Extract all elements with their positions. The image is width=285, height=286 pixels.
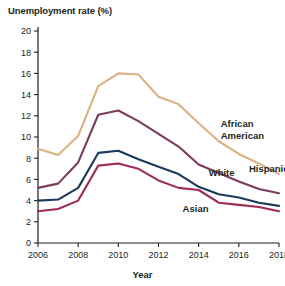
series-label-asian: Asian <box>183 203 209 214</box>
x-tick-label: 2008 <box>68 250 88 260</box>
x-tick-label: 2006 <box>28 250 48 260</box>
y-tick-label: 18 <box>21 48 31 58</box>
y-tick-label: 6 <box>26 175 31 185</box>
unemployment-rate-chart: Unemployment rate (%) 02468101214161820 … <box>0 0 285 286</box>
y-tick-label: 14 <box>21 90 31 100</box>
x-axis-title: Year <box>0 269 285 280</box>
y-tick-label: 16 <box>21 69 31 79</box>
chart-plot-area: 02468101214161820 2006200820102012201420… <box>0 0 285 286</box>
y-tick-label: 4 <box>26 196 31 206</box>
series-line-asian <box>38 164 279 212</box>
series-label-white: White <box>209 167 235 178</box>
y-tick-label: 0 <box>26 238 31 248</box>
y-tick-label: 2 <box>26 217 31 227</box>
y-tick-label: 20 <box>21 26 31 36</box>
series-line-white <box>38 151 279 206</box>
y-axis-ticks: 02468101214161820 <box>21 26 38 248</box>
x-tick-label: 2014 <box>189 250 209 260</box>
x-tick-label: 2010 <box>108 250 128 260</box>
series-label-hispanic: Hispanic <box>249 163 285 174</box>
data-series <box>38 73 279 211</box>
x-tick-label: 2012 <box>148 250 168 260</box>
y-tick-label: 12 <box>21 111 31 121</box>
y-tick-label: 10 <box>21 132 31 142</box>
x-tick-label: 2016 <box>229 250 249 260</box>
series-label-american: American <box>221 130 264 141</box>
x-axis-ticks: 2006200820102012201420162018 <box>28 243 285 260</box>
series-labels: AfricanAmericanHispanicWhiteAsian <box>183 118 285 214</box>
series-label-african: African <box>221 118 254 129</box>
y-tick-label: 8 <box>26 154 31 164</box>
x-tick-label: 2018 <box>269 250 285 260</box>
